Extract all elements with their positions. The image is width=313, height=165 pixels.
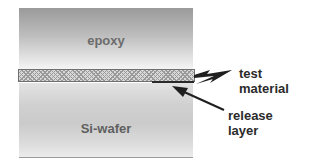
release-layer-arrow-icon xyxy=(172,86,224,110)
release-layer-label-line2: layer xyxy=(228,123,273,138)
test-material-label-line1: test xyxy=(239,66,289,81)
test-material-arrow-icon xyxy=(194,70,232,84)
release-layer-label: release layer xyxy=(228,108,273,138)
release-layer-label-line1: release xyxy=(228,108,273,123)
test-material-label-line2: material xyxy=(239,81,289,96)
test-material-label: test material xyxy=(239,66,289,96)
